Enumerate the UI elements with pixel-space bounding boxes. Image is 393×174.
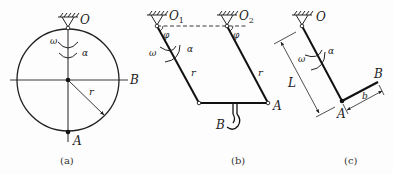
label-L: L [287, 76, 296, 90]
pin-O1 [155, 24, 159, 28]
label-b: b [362, 91, 368, 101]
figure-canvas: O ω α B r A (a) [0, 0, 393, 174]
label-B: B [373, 67, 383, 81]
label-omega: ω [298, 54, 306, 64]
radius-arrow [68, 80, 104, 115]
panel-b: O1 O2 φ φ ω α r r A B (b) [147, 9, 282, 166]
label-O2: O2 [239, 9, 254, 25]
ground-support-O1-icon [147, 11, 168, 25]
joint-A [340, 99, 345, 104]
label-alpha: α [82, 48, 88, 58]
label-A: A [336, 107, 346, 121]
panel-c: O ω α L A B b (c) [274, 10, 384, 166]
label-O1: O1 [169, 9, 184, 25]
label-A: A [272, 99, 282, 113]
ground-support-O2-icon [217, 11, 238, 25]
pin-O2 [225, 24, 229, 28]
ground-support-icon [58, 13, 79, 27]
caption-c: (c) [344, 155, 358, 166]
label-phi1: φ [163, 30, 170, 40]
point-A [66, 130, 71, 135]
joint-A [266, 101, 270, 105]
label-B: B [129, 73, 139, 87]
label-omega: ω [149, 48, 157, 58]
label-omega: ω [50, 36, 58, 46]
omega-arc-icon [305, 50, 322, 57]
panel-a: O ω α B r A (a) [10, 13, 139, 166]
label-alpha: α [187, 44, 193, 54]
dimension-b-ext-B [379, 85, 384, 95]
pin-O [66, 26, 70, 30]
label-phi2: φ [233, 30, 240, 40]
pin-O [300, 24, 304, 28]
label-r: r [89, 86, 95, 97]
ground-support-icon [292, 11, 313, 25]
joint-left [197, 101, 201, 105]
label-alpha: α [328, 46, 334, 56]
label-B: B [215, 118, 225, 132]
label-r-left: r [191, 67, 197, 78]
hook-icon [227, 104, 240, 129]
mechanism-diagram: O ω α B r A (a) [0, 0, 393, 174]
label-O: O [316, 10, 326, 24]
dimension-L-ext-top [274, 32, 296, 44]
label-A: A [72, 134, 82, 148]
label-O: O [80, 13, 90, 27]
dimension-L-line [281, 42, 319, 113]
label-r-right: r [258, 67, 264, 78]
caption-a: (a) [60, 155, 74, 166]
caption-b: (b) [231, 155, 245, 166]
arm-AB [342, 82, 378, 101]
